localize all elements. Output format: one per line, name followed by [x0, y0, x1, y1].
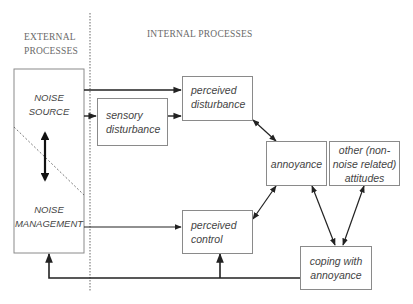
node-other-attitudes: other (non- noise related) attitudes [329, 141, 400, 186]
node-perceived-control: perceived control [182, 210, 253, 254]
edge-coping-feedback [49, 254, 300, 278]
label-line: other (non- [333, 143, 397, 157]
noise-annoyance-diagram: EXTERNAL PROCESSES INTERNAL PROCESSES NO… [0, 0, 413, 304]
internal-processes-heading: INTERNAL PROCESSES [147, 27, 252, 41]
label-line: perceived [191, 218, 237, 232]
node-annoyance: annoyance [266, 141, 327, 186]
node-noise-management: NOISE MANAGEMENT [14, 203, 84, 231]
node-coping-with-annoyance: coping with annoyance [300, 246, 372, 290]
edge-annoyance-coping [312, 186, 335, 245]
label-line: sensory [106, 108, 160, 122]
heading-line: EXTERNAL [24, 30, 78, 44]
label-line: attitudes [333, 171, 397, 185]
edge-perceived-disturbance-annoyance [253, 120, 276, 141]
edge-attitudes-coping [343, 186, 364, 245]
heading-line: PROCESSES [24, 44, 78, 58]
label-line: control [191, 232, 237, 246]
label-line: NOISE [14, 91, 84, 105]
label-line: annoyance [310, 268, 363, 282]
edge-perceived-control-annoyance [253, 186, 276, 219]
node-noise-source: NOISE SOURCE [14, 91, 84, 119]
external-processes-heading: EXTERNAL PROCESSES [24, 30, 78, 58]
label-line: perceived [191, 83, 245, 97]
label-line: disturbance [106, 122, 160, 136]
node-sensory-disturbance: sensory disturbance [97, 98, 168, 146]
label-line: noise related) [333, 157, 397, 171]
label-line: SOURCE [14, 105, 84, 119]
label-line: coping with [310, 254, 363, 268]
node-perceived-disturbance: perceived disturbance [182, 76, 253, 121]
source-management-separator [14, 127, 84, 195]
label-line: NOISE [14, 203, 84, 217]
label-line: disturbance [191, 97, 245, 111]
label-line: MANAGEMENT [14, 217, 84, 231]
